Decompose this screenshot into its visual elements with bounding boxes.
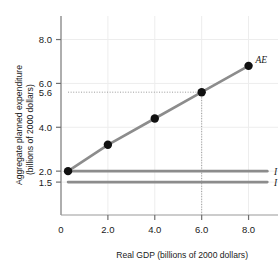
data-point-marker (151, 114, 159, 122)
series-label-i-g: I + G (273, 167, 280, 177)
x-axis-title: Real GDP (billions of 2000 dollars) (116, 250, 248, 260)
x-tick-label: 6.0 (195, 224, 208, 235)
y-tick-label: 1.5 (39, 177, 52, 188)
data-point-marker (64, 167, 72, 175)
data-point-marker (197, 88, 205, 96)
y-tick-label: 4.0 (39, 122, 52, 133)
y-axis-title-line2: (billions of 2000 dollars) (25, 84, 35, 175)
y-tick-label: 2.0 (39, 166, 52, 177)
chart-figure: 1.52.04.05.66.08.0 02.04.06.08.0 AEI + G… (0, 0, 280, 266)
x-axis-title-text: Real GDP (billions of 2000 dollars) (116, 250, 248, 260)
series-label-ae: AE (255, 55, 268, 65)
x-tick-label: 2.0 (101, 224, 114, 235)
x-tick-label: 4.0 (148, 224, 161, 235)
chart-canvas: 1.52.04.05.66.08.0 02.04.06.08.0 AEI + G… (0, 0, 280, 266)
data-point-marker (244, 62, 252, 70)
y-axis-title-line1: Aggregate planned expenditure (14, 65, 24, 185)
x-tick-label: 8.0 (242, 224, 255, 235)
y-tick-label: 6.0 (39, 78, 52, 89)
data-point-marker (104, 141, 112, 149)
y-tick-label: 8.0 (39, 34, 52, 45)
x-tick-label: 0 (58, 224, 63, 235)
